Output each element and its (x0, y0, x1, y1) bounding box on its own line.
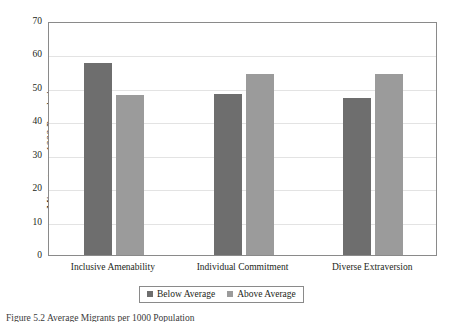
y-axis-tick-label: 40 (2, 117, 42, 127)
bar-below-average (343, 98, 371, 255)
bar-above-average (116, 95, 144, 255)
figure-bar-chart: Migrants per 1000 Population 01020304050… (0, 0, 454, 322)
plot-area (48, 22, 437, 256)
y-axis-tick-label: 30 (2, 151, 42, 161)
legend-item: Above Average (227, 289, 296, 299)
plot-inner (49, 23, 436, 255)
y-axis-tick-label: 70 (2, 17, 42, 27)
legend-swatch-icon (227, 291, 233, 297)
bar-above-average (375, 74, 403, 255)
bar-below-average (84, 63, 112, 255)
chart-legend: Below AverageAbove Average (139, 286, 304, 303)
legend-item: Below Average (147, 289, 215, 299)
bar-below-average (214, 94, 242, 255)
y-axis-tick-label: 0 (2, 251, 42, 261)
legend-swatch-icon (147, 291, 153, 297)
figure-caption: Figure 5.2 Average Migrants per 1000 Pop… (6, 313, 452, 322)
y-axis-tick-label: 10 (2, 218, 42, 228)
x-axis-category-label: Diverse Extraversion (292, 262, 452, 272)
gridline (49, 56, 436, 57)
y-axis-tick-label: 60 (2, 50, 42, 60)
legend-label: Below Average (157, 289, 215, 299)
legend-label: Above Average (237, 289, 296, 299)
bar-above-average (246, 74, 274, 255)
y-axis-tick-label: 20 (2, 184, 42, 194)
y-axis-tick-label: 50 (2, 84, 42, 94)
